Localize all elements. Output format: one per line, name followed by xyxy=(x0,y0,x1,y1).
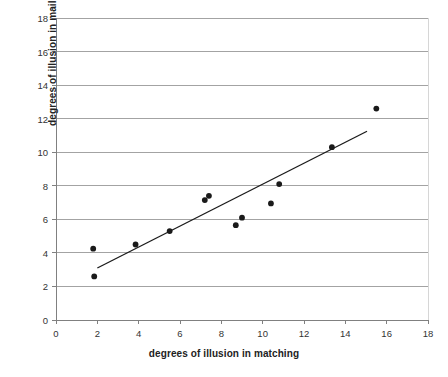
x-tick-label: 16 xyxy=(381,328,392,339)
data-point xyxy=(90,246,96,252)
data-point xyxy=(233,222,239,228)
tick-marks xyxy=(52,18,428,324)
data-point xyxy=(276,181,282,187)
data-point xyxy=(329,144,335,150)
data-point xyxy=(91,273,97,279)
x-tick-label: 12 xyxy=(299,328,310,339)
y-tick-label: 4 xyxy=(22,247,48,258)
data-point xyxy=(268,200,274,206)
y-tick-label: 6 xyxy=(22,214,48,225)
y-tick-label: 16 xyxy=(22,46,48,57)
x-tick-label: 2 xyxy=(95,328,100,339)
x-tick-label: 18 xyxy=(423,328,434,339)
x-tick-label: 8 xyxy=(219,328,224,339)
y-tick-label: 8 xyxy=(22,180,48,191)
y-tick-label: 0 xyxy=(22,315,48,326)
scatter-chart: 024681012141618024681012141618 degrees o… xyxy=(0,0,448,377)
y-tick-label: 12 xyxy=(22,113,48,124)
data-point xyxy=(373,106,379,112)
y-tick-label: 10 xyxy=(22,147,48,158)
y-tick-label: 2 xyxy=(22,281,48,292)
trendline xyxy=(97,131,367,268)
y-tick-label: 14 xyxy=(22,80,48,91)
data-point xyxy=(202,197,208,203)
plot-area xyxy=(0,0,448,377)
data-point xyxy=(206,193,212,199)
data-point xyxy=(239,215,245,221)
y-tick-label: 18 xyxy=(22,13,48,24)
x-tick-label: 10 xyxy=(257,328,268,339)
gridlines xyxy=(56,18,428,320)
y-axis-label: degrees of illusion in mailing xyxy=(47,0,58,176)
data-point xyxy=(167,228,173,234)
data-point xyxy=(133,242,139,248)
x-axis-label: degrees of illusion in matching xyxy=(0,348,448,359)
axis-lines xyxy=(56,18,428,320)
x-tick-label: 14 xyxy=(340,328,351,339)
x-tick-label: 0 xyxy=(53,328,58,339)
x-tick-label: 4 xyxy=(136,328,141,339)
x-tick-label: 6 xyxy=(177,328,182,339)
